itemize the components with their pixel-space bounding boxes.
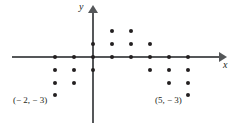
data-point [53,55,57,59]
data-point [72,81,76,85]
y-axis-arrowhead-icon [88,5,98,13]
data-point [186,68,190,72]
annotation-label-left: (− 2, − 3) [13,96,47,105]
data-point [110,29,114,33]
data-point [129,29,133,33]
data-point [148,68,152,72]
annotation-label-right: (5, − 3) [155,96,182,105]
data-point [186,81,190,85]
data-point [53,93,57,97]
data-point [129,55,133,59]
data-point [53,68,57,72]
data-point [167,81,171,85]
data-point [148,55,152,59]
data-point [53,81,57,85]
data-point [72,55,76,59]
data-point [167,68,171,72]
data-point [186,55,190,59]
x-axis-label: x [223,60,227,70]
data-point [110,55,114,59]
data-point [148,42,152,46]
data-point [72,68,76,72]
data-point [129,42,133,46]
data-point [167,55,171,59]
data-point [91,55,95,59]
data-point [91,68,95,72]
y-axis-label: y [79,2,83,12]
coordinate-plane-figure: y x (− 2, − 3) (5, − 3) [0,0,236,125]
data-point [186,93,190,97]
data-point [110,42,114,46]
data-point [91,42,95,46]
